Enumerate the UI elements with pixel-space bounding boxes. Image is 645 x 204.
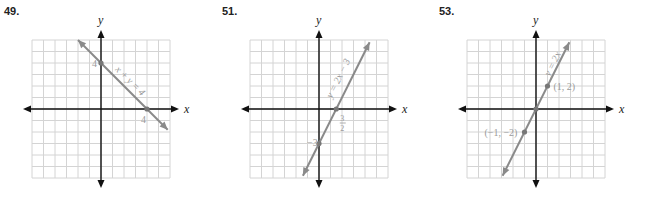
graph-line — [78, 40, 168, 130]
point-label: (−1, −2) — [485, 127, 518, 139]
x-arrow-icon — [23, 106, 31, 113]
graph-49-plot: xy44x + y = 4 — [0, 0, 215, 204]
y-axis-label: y — [315, 13, 322, 27]
point-label: (1, 2) — [554, 81, 576, 93]
x-arrow-icon — [171, 106, 179, 113]
point-label: 2 — [340, 124, 344, 133]
graph-53-plot: xy(1, 2)(−1, −2)y = 2x — [435, 0, 645, 204]
x-axis-label: x — [618, 102, 625, 116]
y-arrow-icon — [98, 180, 105, 188]
x-arrow-icon — [458, 106, 466, 113]
graph-51: 51. xy−332y = 2x − 3 — [218, 0, 433, 204]
data-point — [545, 83, 550, 88]
x-arrow-icon — [241, 106, 249, 113]
axes: xy — [241, 13, 408, 188]
data-point — [522, 129, 527, 134]
data-point — [98, 60, 103, 65]
y-arrow-icon — [533, 30, 540, 38]
point-label: −3 — [307, 137, 318, 148]
point-label: 4 — [141, 114, 146, 125]
graph-53: 53. xy(1, 2)(−1, −2)y = 2x — [435, 0, 645, 204]
x-arrow-icon — [606, 106, 614, 113]
data-point — [334, 106, 339, 111]
y-axis-label: y — [532, 13, 539, 27]
graph-49: 49. xy44x + y = 4 — [0, 0, 215, 204]
data-point — [144, 106, 149, 111]
y-arrow-icon — [533, 180, 540, 188]
graph-51-plot: xy−332y = 2x − 3 — [218, 0, 433, 204]
point-label: 4 — [92, 58, 97, 69]
y-arrow-icon — [316, 30, 323, 38]
y-axis-label: y — [97, 13, 104, 27]
axes: xy — [23, 13, 190, 188]
x-arrow-icon — [389, 106, 397, 113]
axes: xy — [458, 13, 625, 188]
point-label: 3 — [340, 114, 344, 123]
y-arrow-icon — [98, 30, 105, 38]
x-axis-label: x — [183, 102, 190, 116]
data-point — [533, 106, 538, 111]
y-arrow-icon — [316, 180, 323, 188]
x-axis-label: x — [401, 102, 408, 116]
